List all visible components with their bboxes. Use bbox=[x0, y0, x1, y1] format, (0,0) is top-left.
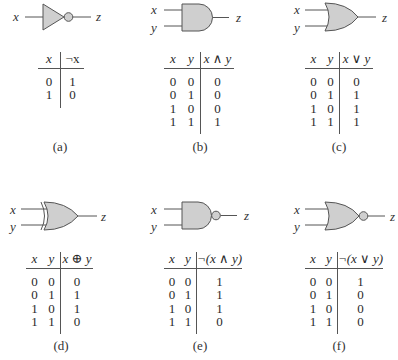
cell: 1 bbox=[305, 302, 321, 315]
caption-f: (f) bbox=[333, 338, 346, 354]
cell: 1 bbox=[197, 275, 243, 288]
table-row: 110 bbox=[26, 315, 93, 328]
table-row: 001 bbox=[305, 275, 383, 288]
cell: 1 bbox=[43, 288, 61, 301]
cell: 0 bbox=[164, 288, 180, 301]
header-y: y bbox=[43, 252, 61, 269]
cell: 0 bbox=[338, 315, 384, 328]
cell: 0 bbox=[305, 275, 321, 288]
cell: 1 bbox=[305, 315, 321, 328]
cell: 1 bbox=[338, 275, 384, 288]
cell: 0 bbox=[43, 302, 61, 315]
table-row: 011 bbox=[164, 288, 242, 301]
table-row: 100 bbox=[305, 302, 383, 315]
header-y: y bbox=[321, 252, 338, 269]
table-row: 011 bbox=[26, 288, 93, 301]
cell: 1 bbox=[43, 315, 61, 328]
cell: 1 bbox=[61, 288, 94, 301]
cell: 0 bbox=[164, 275, 180, 288]
cell: 0 bbox=[26, 275, 43, 288]
cell: 0 bbox=[26, 288, 43, 301]
cell: 1 bbox=[197, 302, 243, 315]
table-row: 001 bbox=[164, 275, 242, 288]
header-result: x ⊕ y bbox=[61, 252, 94, 269]
cell: 1 bbox=[180, 315, 197, 328]
truth-table-xor: x y x ⊕ y 000 011 101 110 bbox=[26, 252, 93, 334]
cell: 0 bbox=[180, 302, 197, 315]
table-row: 000 bbox=[26, 275, 93, 288]
cell: 0 bbox=[61, 315, 94, 328]
cell: 0 bbox=[61, 275, 94, 288]
cell: 0 bbox=[321, 302, 338, 315]
cell: 1 bbox=[164, 302, 180, 315]
table-row: 110 bbox=[164, 315, 242, 328]
cell: 0 bbox=[180, 275, 197, 288]
caption-e: (e) bbox=[193, 338, 207, 354]
table-row: 101 bbox=[164, 302, 242, 315]
truth-table-nand: x y ¬(x ∧ y) 001 011 101 110 bbox=[164, 252, 242, 334]
caption-d: (d) bbox=[53, 338, 68, 354]
table-row: 110 bbox=[305, 315, 383, 328]
table-row: 010 bbox=[305, 288, 383, 301]
truth-table-nor: x y ¬(x ∨ y) 001 010 100 110 bbox=[305, 252, 383, 334]
cell: 0 bbox=[338, 302, 384, 315]
cell: 1 bbox=[321, 315, 338, 328]
header-x: x bbox=[26, 252, 43, 269]
header-result: ¬(x ∨ y) bbox=[338, 252, 384, 269]
cell: 1 bbox=[180, 288, 197, 301]
table-row: 101 bbox=[26, 302, 93, 315]
cell: 1 bbox=[321, 288, 338, 301]
header-x: x bbox=[164, 252, 180, 269]
cell: 0 bbox=[338, 288, 384, 301]
cell: 0 bbox=[305, 288, 321, 301]
cell: 1 bbox=[26, 302, 43, 315]
header-x: x bbox=[305, 252, 321, 269]
cell: 0 bbox=[321, 275, 338, 288]
cell: 1 bbox=[164, 315, 180, 328]
output-label-z: z bbox=[390, 210, 395, 223]
header-result: ¬(x ∧ y) bbox=[197, 252, 243, 269]
nor-gate-icon bbox=[0, 0, 398, 240]
cell: 1 bbox=[26, 315, 43, 328]
cell: 1 bbox=[61, 302, 94, 315]
cell: 0 bbox=[197, 315, 243, 328]
cell: 0 bbox=[43, 275, 61, 288]
header-y: y bbox=[180, 252, 197, 269]
cell: 1 bbox=[197, 288, 243, 301]
